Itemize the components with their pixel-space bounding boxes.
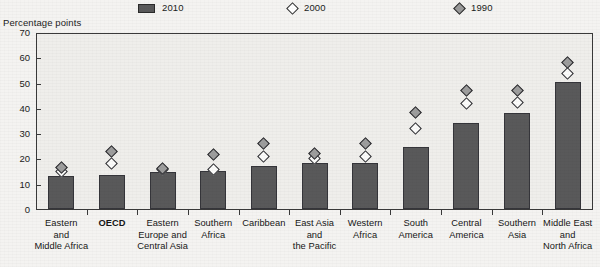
x-axis-tick-mark	[137, 210, 138, 215]
y-axis-tick-mark	[36, 58, 41, 59]
bar	[403, 147, 429, 209]
x-axis-category-label-line: Africa	[184, 230, 243, 242]
x-axis-tick-mark	[289, 210, 290, 215]
bar	[302, 163, 328, 209]
y-axis-tick-mark	[36, 109, 41, 110]
x-axis-tick-mark	[87, 210, 88, 215]
legend-label-1990: 1990	[471, 3, 493, 14]
chart-figure: 2010 2000 1990 Percentage points 0102030…	[0, 0, 600, 267]
bar	[99, 175, 125, 209]
x-axis-tick-mark	[239, 210, 240, 215]
y-axis-tick-label: 70	[0, 28, 30, 38]
x-axis-category-label-line: North Africa	[538, 241, 597, 253]
bar	[352, 163, 378, 209]
y-axis-tick-label: 50	[0, 79, 30, 89]
y-axis-tick-label: 40	[0, 104, 30, 114]
x-axis-tick-mark	[390, 210, 391, 215]
bar	[453, 123, 479, 209]
legend-item-2010: 2010	[138, 0, 184, 16]
y-axis-tick-label: 30	[0, 129, 30, 139]
y-axis-unit-label: Percentage points	[3, 17, 81, 28]
y-axis-tick-label: 20	[0, 155, 30, 165]
legend-item-2000: 2000	[288, 0, 326, 16]
bar	[200, 171, 226, 209]
x-axis-tick-mark	[340, 210, 341, 215]
x-axis-category-label-line: Middle Africa	[32, 241, 91, 253]
bar	[251, 166, 277, 209]
y-axis-tick-mark	[36, 134, 41, 135]
y-axis-tick-label: 60	[0, 54, 30, 64]
y-axis-tick-mark	[36, 84, 41, 85]
x-axis-category-label-line: Central Asia	[133, 241, 192, 253]
y-axis-tick-label: 10	[0, 180, 30, 190]
x-axis-tick-mark	[542, 210, 543, 215]
bar	[150, 172, 176, 209]
legend-item-1990: 1990	[455, 0, 493, 16]
x-axis-tick-mark	[441, 210, 442, 215]
x-axis-tick-mark	[492, 210, 493, 215]
bar	[504, 113, 530, 209]
y-axis-tick-mark	[36, 185, 41, 186]
bar	[48, 176, 74, 209]
chart-legend: 2010 2000 1990	[0, 0, 600, 16]
y-axis-tick-label: 0	[0, 205, 30, 215]
y-axis-tick-mark	[36, 159, 41, 160]
legend-label-2010: 2010	[162, 3, 184, 14]
x-axis-category-label-line: Middle East	[538, 218, 597, 230]
x-axis-category-label-line: and	[32, 230, 91, 242]
x-axis-category-label-line: the Pacific	[285, 241, 344, 253]
x-axis-category-label: Middle EastandNorth Africa	[538, 218, 597, 253]
bar-swatch-icon	[138, 4, 155, 13]
legend-label-2000: 2000	[304, 3, 326, 14]
x-axis-tick-mark	[188, 210, 189, 215]
open-diamond-icon	[286, 2, 299, 15]
filled-diamond-icon	[453, 2, 466, 15]
bar	[555, 82, 581, 209]
x-axis-category-label-line: and	[538, 230, 597, 242]
